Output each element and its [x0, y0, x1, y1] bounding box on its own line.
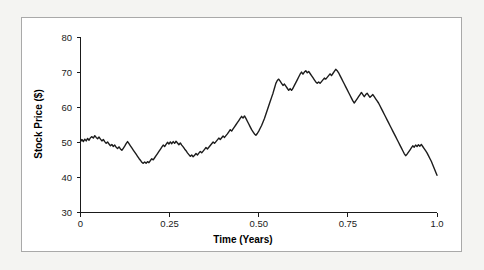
- figure-root: 30 40 50 60 70 80 0 0.25 0.50 0.75 1.0 T…: [0, 0, 484, 270]
- chart-card: [21, 17, 462, 252]
